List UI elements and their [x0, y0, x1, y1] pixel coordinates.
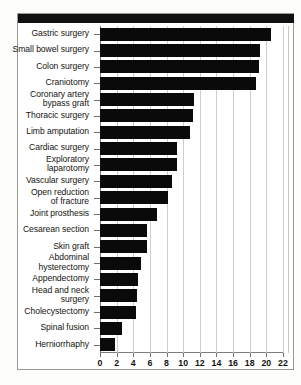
- y-axis-label-line: Thoracic surgery: [1, 111, 89, 120]
- bar-row: [100, 273, 138, 286]
- y-axis-label-line: laparotomy: [1, 164, 89, 173]
- y-axis-label: Herniorrhaphy: [1, 340, 89, 349]
- y-axis-tick: [94, 345, 100, 346]
- y-axis-label-line: Colon surgery: [1, 62, 89, 71]
- bar: [100, 208, 157, 221]
- bar-row: [100, 208, 157, 221]
- y-axis-label: Joint prosthesis: [1, 209, 89, 218]
- y-axis-label: Appendectomy: [1, 274, 89, 283]
- bar: [100, 60, 259, 73]
- y-axis-label-line: Skin graft: [1, 242, 89, 251]
- bar-row: [100, 289, 137, 302]
- y-axis-tick: [94, 279, 100, 280]
- y-axis-label-line: Vascular surgery: [1, 176, 89, 185]
- y-axis-label: Limb amputation: [1, 127, 89, 136]
- x-axis-tick: [183, 353, 184, 357]
- x-axis-tick: [133, 353, 134, 357]
- y-axis-label-line: of fracture: [1, 197, 89, 206]
- y-axis-label-line: Limb amputation: [1, 127, 89, 136]
- y-axis-label: Small bowel surgery: [1, 45, 89, 54]
- bar-row: [100, 257, 141, 270]
- x-axis-tick: [150, 353, 151, 357]
- gridline: [283, 26, 284, 353]
- y-axis-label-line: Cholecystectomy: [1, 307, 89, 316]
- y-axis-tick: [94, 116, 100, 117]
- bar-row: [100, 322, 122, 335]
- y-axis-label: Cholecystectomy: [1, 307, 89, 316]
- bar: [100, 93, 194, 106]
- bar-row: [100, 93, 194, 106]
- y-axis-label: Abdominalhysterectomy: [1, 253, 89, 272]
- y-axis-label: Cesarean section: [1, 225, 89, 234]
- bar: [100, 224, 147, 237]
- y-axis-tick: [94, 34, 100, 35]
- x-axis-tick: [100, 353, 101, 357]
- y-axis-tick: [94, 51, 100, 52]
- y-axis-label-line: Cesarean section: [1, 225, 89, 234]
- y-axis-label: Open reductionof fracture: [1, 188, 89, 207]
- bar-row: [100, 240, 147, 253]
- bar: [100, 322, 122, 335]
- bar-row: [100, 142, 177, 155]
- y-axis-tick: [94, 312, 100, 313]
- bar: [100, 289, 137, 302]
- bar: [100, 109, 193, 122]
- x-axis-tick-labels: 0246810121416182022: [0, 358, 301, 372]
- x-axis-tick-label: 22: [273, 358, 293, 368]
- bar: [100, 338, 115, 351]
- y-axis-label-line: Spinal fusion: [1, 323, 89, 332]
- y-axis-tick: [94, 247, 100, 248]
- y-axis-tick: [94, 67, 100, 68]
- bar: [100, 158, 177, 171]
- x-axis-tick: [167, 353, 168, 357]
- bar-row: [100, 158, 177, 171]
- bar-row: [100, 126, 190, 139]
- bar: [100, 257, 141, 270]
- x-axis-tick: [233, 353, 234, 357]
- y-axis-tick: [94, 181, 100, 182]
- y-axis-label-line: hysterectomy: [1, 263, 89, 272]
- y-axis-label-line: Cardiac surgery: [1, 143, 89, 152]
- y-axis-label-line: bypass graft: [1, 99, 89, 108]
- chart-plot: Gastric surgerySmall bowel surgeryColon …: [0, 0, 301, 385]
- y-axis-tick: [94, 296, 100, 297]
- figure-root: Gastric surgerySmall bowel surgeryColon …: [0, 0, 301, 385]
- bar-row: [100, 191, 168, 204]
- bar-series: [100, 26, 283, 353]
- y-axis-tick: [94, 230, 100, 231]
- y-axis-tick: [94, 132, 100, 133]
- y-axis-tick: [94, 165, 100, 166]
- y-axis-label: Spinal fusion: [1, 323, 89, 332]
- y-axis-label: Skin graft: [1, 242, 89, 251]
- y-axis-label: Colon surgery: [1, 62, 89, 71]
- bar-row: [100, 109, 193, 122]
- bar-row: [100, 338, 115, 351]
- bar-row: [100, 44, 260, 57]
- y-axis-label: Coronary arterybypass graft: [1, 90, 89, 109]
- bar: [100, 240, 147, 253]
- y-axis-label: Craniotomy: [1, 78, 89, 87]
- y-axis-label-line: Small bowel surgery: [1, 45, 89, 54]
- y-axis-tick: [94, 198, 100, 199]
- y-axis-label-line: Gastric surgery: [1, 29, 89, 38]
- y-axis-label: Gastric surgery: [1, 29, 89, 38]
- y-axis-tick: [94, 149, 100, 150]
- bar-row: [100, 28, 271, 41]
- bar: [100, 126, 190, 139]
- y-axis-label-line: Craniotomy: [1, 78, 89, 87]
- y-axis-label: Thoracic surgery: [1, 111, 89, 120]
- y-axis-labels: Gastric surgerySmall bowel surgeryColon …: [0, 26, 100, 353]
- y-axis-tick: [94, 328, 100, 329]
- y-axis-label-line: Herniorrhaphy: [1, 340, 89, 349]
- plot-right-spine: [288, 26, 289, 353]
- bar: [100, 306, 136, 319]
- bar: [100, 191, 168, 204]
- x-axis-tick: [283, 353, 284, 357]
- bar: [100, 44, 260, 57]
- y-axis-tick: [94, 214, 100, 215]
- y-axis-label: Head and necksurgery: [1, 286, 89, 305]
- bar: [100, 175, 172, 188]
- y-axis-label: Exploratorylaparotomy: [1, 155, 89, 174]
- bar-row: [100, 306, 136, 319]
- y-axis-label-line: surgery: [1, 295, 89, 304]
